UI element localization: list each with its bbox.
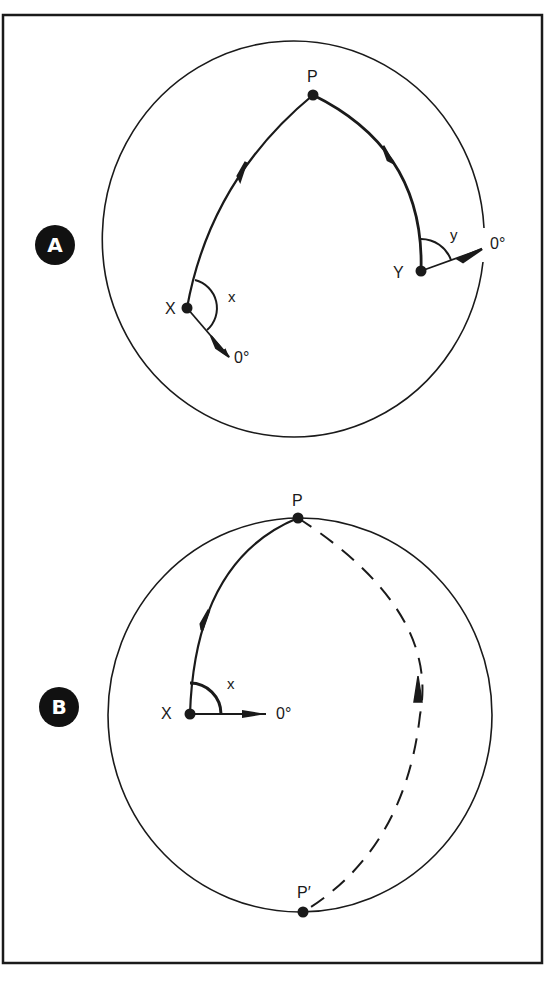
arc-x-to-p xyxy=(187,95,313,308)
label-zero-degrees: 0° xyxy=(234,349,249,366)
point-p xyxy=(293,513,304,524)
point-x xyxy=(185,709,196,720)
label-p: P xyxy=(307,68,318,85)
label-p-prime: P′ xyxy=(297,884,311,901)
label-x: X xyxy=(165,300,176,317)
direction-arrow-icon xyxy=(201,610,209,630)
angle-arc-y xyxy=(421,239,451,260)
label-p: P xyxy=(292,492,303,509)
arc-p-to-y xyxy=(313,95,421,271)
label-y: Y xyxy=(393,264,404,281)
label-x: X xyxy=(161,705,172,722)
direction-arrow-icon xyxy=(414,676,422,702)
point-x xyxy=(182,303,193,314)
label-zero-degrees: 0° xyxy=(276,705,291,722)
label-angle-y: y xyxy=(450,226,458,243)
point-p-prime xyxy=(298,907,309,918)
point-p xyxy=(308,90,319,101)
angle-arc-x xyxy=(190,683,221,714)
panel-badge-a-label: A xyxy=(47,233,63,257)
direction-arrow-icon xyxy=(238,162,246,180)
point-y xyxy=(416,266,427,277)
direction-arrow-icon xyxy=(383,146,392,162)
label-zero-degrees: 0° xyxy=(490,235,505,252)
direction-arrow-icon xyxy=(211,336,229,357)
figure: P X x 0° Y y 0° A P P′ xyxy=(0,0,550,981)
label-angle-x: x xyxy=(228,288,236,305)
dashed-arc-p-to-p-prime xyxy=(298,518,422,912)
panel-badge-b-label: B xyxy=(51,695,66,719)
panel-a: P X x 0° Y y 0° A xyxy=(35,41,505,437)
label-angle-x: x xyxy=(227,675,235,692)
panel-b: P P′ X x 0° B xyxy=(39,492,492,918)
direction-arrow-icon xyxy=(242,710,266,718)
